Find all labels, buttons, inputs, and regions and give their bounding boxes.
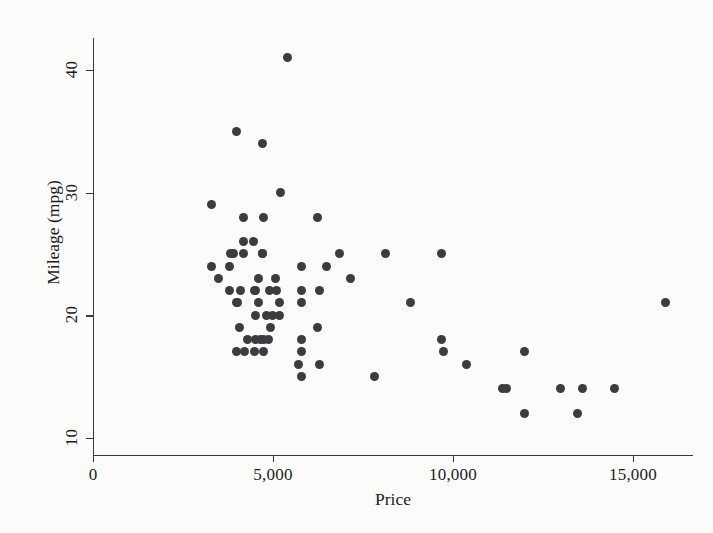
data-point: [272, 286, 281, 295]
data-point: [254, 298, 263, 307]
data-point: [297, 335, 306, 344]
data-point: [313, 213, 322, 222]
data-point: [297, 347, 306, 356]
data-point: [370, 372, 379, 381]
data-point: [502, 384, 511, 393]
x-axis-tick-label: 0: [48, 466, 138, 483]
x-axis-tick: [93, 455, 94, 462]
data-point: [239, 249, 248, 258]
data-point: [283, 53, 292, 62]
data-point: [573, 409, 582, 418]
data-point: [297, 372, 306, 381]
data-point: [381, 249, 390, 258]
data-point: [264, 335, 273, 344]
data-point: [214, 274, 223, 283]
x-axis-tick: [453, 455, 454, 462]
x-axis-tick-label: 10,000: [408, 466, 498, 483]
x-axis-title: Price: [93, 489, 693, 510]
data-point: [207, 262, 216, 271]
data-point: [239, 213, 248, 222]
data-point: [437, 249, 446, 258]
scatter-plot-figure: 10203040 05,00010,00015,000 Mileage (mpg…: [0, 0, 713, 533]
data-point: [251, 311, 260, 320]
y-axis-tick: [86, 193, 93, 194]
y-axis-tick: [86, 438, 93, 439]
x-axis-tick: [273, 455, 274, 462]
data-point: [315, 286, 324, 295]
data-point: [520, 347, 529, 356]
data-point: [235, 323, 244, 332]
data-point: [315, 360, 324, 369]
data-point: [313, 323, 322, 332]
data-point: [661, 298, 670, 307]
data-point: [294, 360, 303, 369]
data-point: [346, 274, 355, 283]
data-point: [258, 249, 267, 258]
data-point: [236, 286, 245, 295]
data-point: [265, 286, 274, 295]
data-point: [556, 384, 565, 393]
y-axis-tick-label: 10: [63, 417, 80, 457]
y-axis-title: Mileage (mpg): [43, 143, 64, 323]
data-point: [271, 274, 280, 283]
data-point: [297, 286, 306, 295]
data-point: [268, 311, 277, 320]
data-point: [439, 347, 448, 356]
data-point: [232, 347, 241, 356]
data-point: [275, 298, 284, 307]
data-point: [437, 335, 446, 344]
data-point: [520, 409, 529, 418]
data-point: [335, 249, 344, 258]
data-point: [259, 347, 268, 356]
data-point: [322, 262, 331, 271]
x-axis-tick-label: 15,000: [588, 466, 678, 483]
data-point: [239, 237, 248, 246]
data-point: [578, 384, 587, 393]
data-point: [276, 188, 285, 197]
data-point: [249, 237, 258, 246]
y-axis-tick: [86, 315, 93, 316]
y-axis-tick-label: 30: [63, 172, 80, 212]
plot-area: [93, 38, 693, 455]
y-axis-tick-label: 40: [63, 49, 80, 89]
x-axis-tick-label: 5,000: [228, 466, 318, 483]
data-point: [207, 200, 216, 209]
data-point: [250, 347, 259, 356]
data-point: [225, 286, 234, 295]
data-point: [297, 298, 306, 307]
data-point: [258, 139, 267, 148]
x-axis-tick: [633, 455, 634, 462]
data-point: [254, 274, 263, 283]
data-point: [297, 262, 306, 271]
data-point: [266, 323, 275, 332]
y-axis-tick: [86, 70, 93, 71]
data-point: [256, 335, 265, 344]
data-point: [232, 127, 241, 136]
data-point: [610, 384, 619, 393]
data-point: [225, 262, 234, 271]
y-axis-tick-label: 20: [63, 295, 80, 335]
data-point: [462, 360, 471, 369]
data-point: [233, 298, 242, 307]
data-point: [406, 298, 415, 307]
data-point: [259, 213, 268, 222]
